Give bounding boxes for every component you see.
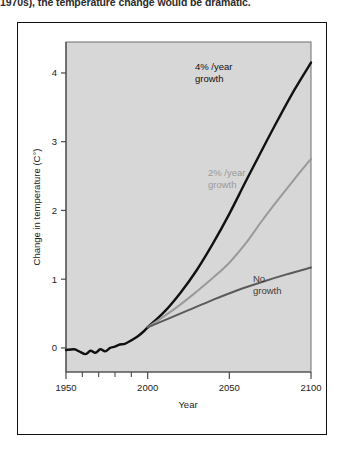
x-axis-ticks [66,372,311,379]
plot-area-background [66,42,311,372]
x-tick-label-1950: 1950 [55,382,76,393]
x-axis-minor-ticks [82,372,131,377]
label-4-percent-line1: 4% /year [195,61,233,72]
x-tick-label-2050: 2050 [219,382,240,393]
y-tick-label-3: 3 [52,136,57,147]
y-axis-ticks [61,73,66,348]
label-2-percent-line2: growth [208,179,237,190]
temperature-change-line-chart: 01234 1950200020502100 Change in tempera… [0,0,343,454]
y-tick-label-4: 4 [52,67,57,78]
x-tick-label-2100: 2100 [300,382,321,393]
y-tick-label-2: 2 [52,205,57,216]
label-no-growth-line1: No [253,273,265,284]
x-axis-title: Year [178,399,197,410]
label-4-percent-line2: growth [195,73,224,84]
y-tick-label-0: 0 [52,342,57,353]
x-axis-tick-labels: 1950200020502100 [55,382,321,393]
x-tick-label-2000: 2000 [137,382,158,393]
y-tick-label-1: 1 [52,274,57,285]
label-no-growth-line2: growth [253,285,282,296]
y-axis-title: Change in temperature (C°) [31,149,42,266]
y-axis-tick-labels: 01234 [52,67,57,353]
label-2-percent-line1: 2% /year [208,167,246,178]
